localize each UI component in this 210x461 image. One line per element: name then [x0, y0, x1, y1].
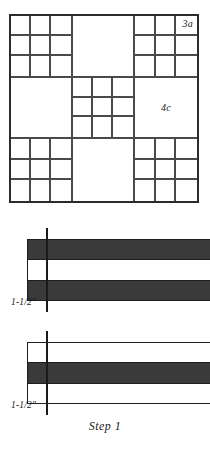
patch-square [11, 36, 31, 56]
nine-patch-grid [73, 78, 133, 138]
cut-guide-line [46, 228, 48, 312]
patch-square [176, 180, 197, 201]
fabric-strip-dark [28, 362, 210, 382]
patch-square [135, 160, 156, 181]
block-unit-nine-patch [11, 139, 73, 201]
fabric-strip-dark [28, 280, 210, 300]
patch-square [51, 16, 71, 36]
patch-square [31, 180, 51, 201]
nine-patch-grid [135, 139, 197, 201]
strip-set-1 [27, 239, 210, 301]
patch-square [31, 36, 51, 56]
patch-square [31, 16, 51, 36]
patch-square [31, 139, 51, 160]
patch-square [11, 139, 31, 160]
patch-square [135, 36, 156, 56]
patch-square [31, 56, 51, 76]
patch-square [11, 16, 31, 36]
step-caption: Step 1 [0, 419, 210, 434]
patch-square [11, 56, 31, 76]
patch-square [73, 117, 93, 137]
patch-square [51, 139, 71, 160]
block-label-4c: 4c [161, 102, 171, 113]
fabric-strip-light [28, 259, 210, 279]
patch-square [176, 139, 197, 160]
patch-square [51, 36, 71, 56]
strip-set-2 [27, 342, 210, 404]
quilt-block-diagram: 3a 4c [9, 14, 199, 203]
patch-square [156, 56, 177, 76]
patch-square [113, 78, 133, 98]
block-unit-nine-patch [135, 139, 197, 201]
patch-square [135, 56, 156, 76]
block-unit-nine-patch [11, 16, 73, 78]
patch-square [31, 160, 51, 181]
patch-square [93, 117, 113, 137]
nine-patch-grid [11, 139, 71, 201]
dimension-label-strip-set-1: 1-1/2" [11, 297, 36, 307]
fabric-strip-light [28, 343, 210, 362]
patch-square [51, 56, 71, 76]
patch-square [156, 16, 177, 36]
block-unit-nine-patch: 3a [135, 16, 197, 78]
patch-square [73, 78, 93, 98]
block-unit-plain [73, 16, 135, 78]
fabric-strip-dark [28, 240, 210, 259]
patch-square [11, 160, 31, 181]
patch-square [176, 160, 197, 181]
patch-square [156, 139, 177, 160]
dimension-label-strip-set-2: 1-1/2" [11, 400, 36, 410]
nine-patch-grid [11, 16, 71, 76]
block-unit-nine-patch-center [73, 78, 135, 140]
patch-square [113, 98, 133, 118]
block-unit-plain: 4c [135, 78, 197, 140]
patch-square [156, 36, 177, 56]
block-label-3a: 3a [182, 18, 193, 29]
fabric-strip-light [28, 383, 210, 403]
patch-square [93, 98, 113, 118]
patch-square [135, 180, 156, 201]
patch-square [176, 56, 197, 76]
patch-square [156, 180, 177, 201]
block-unit-plain [73, 139, 135, 201]
patch-square [51, 160, 71, 181]
patch-square [11, 180, 31, 201]
patch-square [73, 98, 93, 118]
patch-square [51, 180, 71, 201]
patch-square [176, 36, 197, 56]
strip-stack [27, 342, 210, 404]
strip-stack [27, 239, 210, 301]
block-unit-plain [11, 78, 73, 140]
patch-square [135, 139, 156, 160]
patch-square [156, 160, 177, 181]
cut-guide-line [46, 331, 48, 415]
patch-square [135, 16, 156, 36]
patch-square [113, 117, 133, 137]
patch-square [93, 78, 113, 98]
block-grid: 3a 4c [11, 16, 197, 201]
